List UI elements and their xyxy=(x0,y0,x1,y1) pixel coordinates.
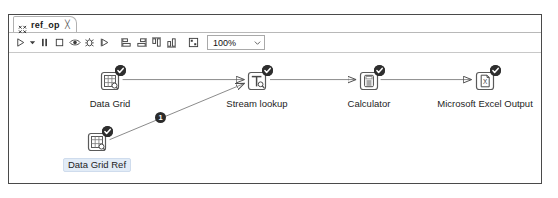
transformation-icon xyxy=(18,20,27,29)
toolbar-separator xyxy=(112,35,119,51)
status-ok-badge xyxy=(102,126,113,137)
status-ok-badge xyxy=(490,65,501,76)
align-bottom-button[interactable] xyxy=(164,35,179,51)
node-microsoft-excel-output[interactable]: X Microsoft Excel Output xyxy=(437,69,533,111)
hop-info-badge[interactable]: 1 xyxy=(155,112,166,123)
run-options-caret[interactable] xyxy=(28,35,37,51)
status-ok-badge xyxy=(115,65,126,76)
node-icon-wrapper: X xyxy=(473,69,497,93)
node-label: Data Grid Ref xyxy=(63,158,131,172)
chevron-down-icon[interactable] xyxy=(250,36,264,49)
transformation-editor-window: ref_op ╳ xyxy=(8,14,542,184)
stop-button[interactable] xyxy=(52,35,67,51)
node-icon-wrapper xyxy=(245,69,269,93)
transformation-canvas[interactable]: 1 xyxy=(9,53,541,183)
align-right-button[interactable] xyxy=(134,35,149,51)
node-stream-lookup[interactable]: Stream lookup xyxy=(209,69,305,111)
status-ok-badge xyxy=(262,65,273,76)
node-icon-wrapper xyxy=(85,130,109,154)
editor-tab-strip: ref_op ╳ xyxy=(9,15,541,33)
node-label: Data Grid xyxy=(85,97,136,111)
node-icon-wrapper xyxy=(357,69,381,93)
pause-button[interactable] xyxy=(37,35,52,51)
svg-text:X: X xyxy=(483,78,488,85)
zoom-level-combobox[interactable]: 100% xyxy=(207,35,265,50)
node-calculator[interactable]: Calculator xyxy=(321,69,417,111)
tab-label: ref_op xyxy=(31,20,60,30)
align-top-button[interactable] xyxy=(149,35,164,51)
close-icon[interactable]: ╳ xyxy=(65,21,70,29)
align-left-button[interactable] xyxy=(119,35,134,51)
replay-button[interactable] xyxy=(97,35,112,51)
toolbar-separator-2 xyxy=(179,35,186,51)
node-icon-wrapper xyxy=(98,69,122,93)
node-label: Calculator xyxy=(343,97,396,111)
node-data-grid[interactable]: Data Grid xyxy=(62,69,158,111)
debug-button[interactable] xyxy=(82,35,97,51)
run-button[interactable] xyxy=(13,35,28,51)
node-label: Stream lookup xyxy=(221,97,292,111)
node-label: Microsoft Excel Output xyxy=(432,97,538,111)
zoom-level-value: 100% xyxy=(208,38,250,48)
status-ok-badge xyxy=(374,65,385,76)
preview-button[interactable] xyxy=(67,35,82,51)
editor-toolbar: 100% xyxy=(9,33,541,53)
tab-ref_op[interactable]: ref_op ╳ xyxy=(13,16,77,32)
node-data-grid-ref[interactable]: Data Grid Ref xyxy=(49,130,145,172)
snap-to-grid-button[interactable] xyxy=(186,35,201,51)
